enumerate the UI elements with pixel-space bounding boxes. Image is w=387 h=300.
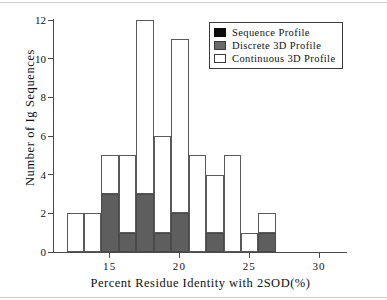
- y-tick-label: 0: [0, 246, 46, 258]
- x-tick: [109, 253, 110, 258]
- histogram-figure: 024681012 15202530 Number of Ig Sequence…: [0, 0, 387, 300]
- x-axis-line: [53, 252, 347, 253]
- histogram-bar: [136, 20, 153, 252]
- legend-item: Continuous 3D Profile: [214, 52, 338, 65]
- x-tick-label: 15: [90, 260, 130, 272]
- x-tick-label: 20: [160, 260, 200, 272]
- bar-segment-continuous: [241, 233, 258, 252]
- histogram-bar: [189, 155, 206, 252]
- y-tick-label: 2: [0, 207, 46, 219]
- y-tick: [48, 213, 53, 214]
- y-tick: [48, 20, 53, 21]
- histogram-bar: [206, 175, 223, 252]
- y-tick: [48, 174, 53, 175]
- bottom-rule: [0, 297, 387, 298]
- legend-item: Discrete 3D Profile: [214, 39, 338, 52]
- legend-item: Sequence Profile: [214, 26, 338, 39]
- top-rule: [0, 2, 387, 3]
- x-tick-label: 25: [229, 260, 269, 272]
- x-tick: [249, 253, 250, 258]
- x-tick: [319, 253, 320, 258]
- histogram-bar: [224, 155, 241, 252]
- y-tick-label: 12: [0, 14, 46, 26]
- bar-segment-continuous: [189, 155, 206, 252]
- histogram-bar: [241, 233, 258, 252]
- bar-segment-discrete: [206, 233, 223, 252]
- bar-segment-continuous: [206, 175, 223, 233]
- bar-segment-continuous: [67, 213, 84, 252]
- legend-swatch-continuous: [214, 54, 226, 63]
- bar-segment-discrete: [119, 233, 136, 252]
- bar-segment-continuous: [258, 213, 275, 232]
- bar-segment-continuous: [171, 39, 188, 213]
- bar-segment-continuous: [119, 155, 136, 232]
- histogram-bar: [171, 39, 188, 252]
- bar-segment-discrete: [154, 233, 171, 252]
- x-tick-label: 30: [299, 260, 339, 272]
- histogram-bar: [119, 155, 136, 252]
- y-axis-title: Number of Ig Sequences: [23, 33, 38, 203]
- bar-segment-discrete: [171, 213, 188, 252]
- bar-segment-continuous: [136, 20, 153, 194]
- histogram-bar: [101, 155, 118, 252]
- bar-segment-continuous: [84, 213, 101, 252]
- bar-segment-continuous: [224, 155, 241, 252]
- x-axis-title: Percent Residue Identity with 2SOD(%): [54, 276, 347, 291]
- bar-segment-discrete: [101, 194, 118, 252]
- legend-label: Continuous 3D Profile: [232, 53, 335, 64]
- histogram-bar: [258, 213, 275, 252]
- histogram-bar: [154, 136, 171, 252]
- y-tick: [48, 97, 53, 98]
- histogram-bar: [67, 213, 84, 252]
- y-tick: [48, 136, 53, 137]
- legend-label: Sequence Profile: [232, 27, 310, 38]
- y-tick: [48, 252, 53, 253]
- bar-segment-discrete: [136, 194, 153, 252]
- histogram-bar: [84, 213, 101, 252]
- bar-segment-discrete: [258, 233, 275, 252]
- bar-segment-continuous: [154, 136, 171, 233]
- bar-segment-continuous: [101, 155, 118, 194]
- x-tick: [179, 253, 180, 258]
- legend-label: Discrete 3D Profile: [232, 40, 321, 51]
- legend-swatch-sequence: [214, 28, 226, 37]
- chart-legend: Sequence ProfileDiscrete 3D ProfileConti…: [209, 22, 343, 69]
- legend-swatch-discrete: [214, 41, 226, 50]
- y-tick: [48, 58, 53, 59]
